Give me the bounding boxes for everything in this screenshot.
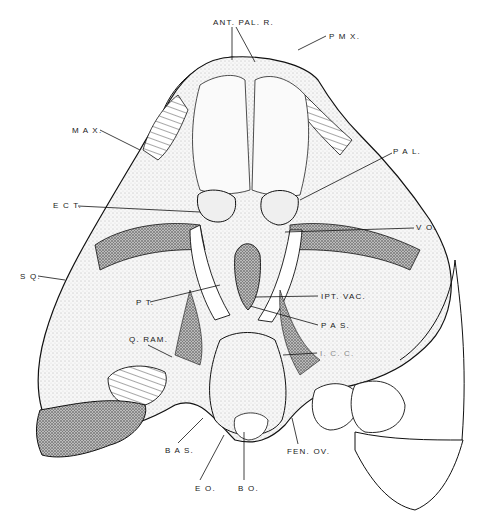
label-bo: B O. (238, 485, 259, 493)
label-bas: B A S. (165, 447, 194, 455)
label-vo: V O. (416, 224, 437, 232)
anatomical-figure: ANT. PAL. R. P M X. M A X. P A L. E C T.… (0, 0, 488, 524)
skull-drawing (0, 0, 488, 524)
label-max: M A X. (72, 127, 102, 135)
label-pal: P A L. (393, 148, 421, 156)
jaw-left (36, 401, 145, 457)
label-pmx: P M X. (329, 33, 360, 41)
label-fen-ov: FEN. OV. (287, 448, 330, 456)
label-pt: P T. (136, 299, 154, 307)
palatine-left (193, 75, 251, 193)
label-ect: E C T. (53, 202, 82, 210)
palatine-right (252, 76, 309, 196)
label-q-ram: Q. RAM. (129, 336, 168, 344)
quadrate-right (351, 381, 405, 432)
jaw-right (355, 432, 463, 510)
label-pas: P A S. (321, 322, 350, 330)
label-icc: I. C. C. (320, 350, 355, 358)
label-eo: E O. (195, 485, 216, 493)
label-ipt-vac: IPT. VAC. (321, 293, 366, 301)
label-ant-pal-r: ANT. PAL. R. (213, 19, 274, 27)
label-sq: S Q. (20, 273, 41, 281)
